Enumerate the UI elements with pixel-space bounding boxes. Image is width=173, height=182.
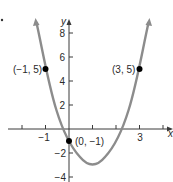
corner-mark bbox=[1, 19, 3, 21]
curve-arrow-left-icon bbox=[33, 18, 40, 26]
parabola-chart: 8 6 4 2 −2 −4 −1 3 y x (−1, 5) (3, 5) (0… bbox=[0, 0, 173, 182]
x-axis-label: x bbox=[167, 128, 173, 139]
point-label: (0, −1) bbox=[75, 136, 104, 147]
point-0-neg1 bbox=[66, 138, 72, 144]
y-tick-label: −2 bbox=[55, 148, 67, 159]
y-tick-label: 6 bbox=[59, 52, 65, 63]
point-neg1-5 bbox=[43, 66, 49, 72]
y-axis-arrow-icon bbox=[67, 19, 72, 25]
y-ticks bbox=[69, 33, 73, 177]
x-ticks bbox=[22, 125, 163, 129]
y-tick-label: −4 bbox=[55, 172, 67, 182]
y-tick-label: 4 bbox=[59, 76, 65, 87]
point-label: (−1, 5) bbox=[13, 64, 42, 75]
x-tick-label: −1 bbox=[38, 132, 50, 143]
curve-arrow-right-icon bbox=[146, 18, 153, 26]
point-label: (3, 5) bbox=[112, 64, 135, 75]
y-tick-label: 8 bbox=[59, 28, 65, 39]
y-tick-label: 2 bbox=[59, 100, 65, 111]
y-axis-label: y bbox=[60, 16, 67, 27]
x-tick-label: 3 bbox=[137, 132, 143, 143]
point-3-5 bbox=[137, 66, 143, 72]
